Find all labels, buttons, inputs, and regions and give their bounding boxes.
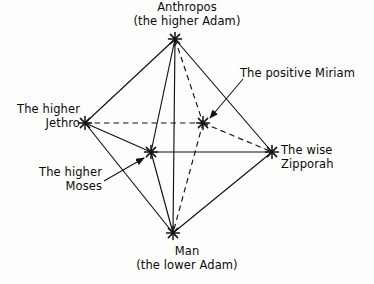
octahedron-diagram: Anthropos (the higher Adam) Man (the low…	[0, 0, 374, 284]
vertex-anthropos[interactable]	[169, 33, 182, 46]
edge-miriam-man	[173, 123, 203, 233]
vertex-markers-group	[79, 33, 279, 240]
edge-anthropos-miriam	[175, 39, 203, 123]
edge-miriam-zipporah	[203, 123, 272, 152]
label-moses: The higher Moses	[2, 166, 102, 193]
edge-zipporah-man	[173, 152, 272, 233]
label-jethro: The higher Jethro	[2, 103, 80, 130]
vertex-man[interactable]	[167, 227, 180, 240]
edge-anthropos-man	[173, 39, 175, 233]
edge-anthropos-jethro	[85, 39, 175, 123]
label-man: Man (the lower Adam)	[0, 245, 374, 272]
vertex-miriam[interactable]	[197, 117, 210, 130]
label-miriam: The positive Miriam	[240, 67, 374, 81]
label-anthropos: Anthropos (the higher Adam)	[0, 1, 374, 28]
edge-moses-man	[151, 152, 173, 233]
edge-anthropos-moses	[151, 39, 175, 152]
vertex-moses[interactable]	[145, 146, 158, 159]
diagram-canvas	[0, 0, 374, 284]
leader-line-moses	[104, 158, 144, 181]
label-zipporah: The wise Zipporah	[281, 144, 374, 171]
vertex-jethro[interactable]	[79, 117, 92, 130]
edge-anthropos-zipporah	[175, 39, 272, 152]
vertex-zipporah[interactable]	[266, 146, 279, 159]
edge-jethro-moses	[85, 123, 151, 152]
